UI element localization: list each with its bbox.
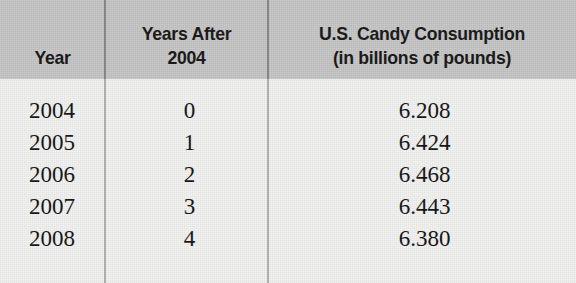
table-row: 2008 4 6.380 [0,223,576,255]
table-header-band: Year Years After 2004 U.S. Candy Consump… [0,0,576,79]
cell-consumption: 6.424 [267,127,576,159]
table-row: 2005 1 6.424 [0,127,576,159]
table-row: 2007 3 6.443 [0,191,576,223]
table-body: 2004 0 6.208 2005 1 6.424 2006 2 6.468 2… [0,79,576,283]
cell-consumption: 6.468 [267,159,576,191]
column-header-year: Year [4,46,102,70]
column-header-consumption-line-1: U.S. Candy Consumption [279,22,565,46]
cell-year: 2006 [0,159,104,191]
cell-consumption: 6.380 [267,223,576,255]
cell-years-after: 3 [104,191,271,223]
column-header-year-line-1: Year [4,46,102,70]
column-header-consumption: U.S. Candy Consumption (in billions of p… [279,22,565,70]
cell-consumption: 6.208 [267,95,576,127]
cell-year: 2007 [0,191,104,223]
candy-consumption-table: Year Years After 2004 U.S. Candy Consump… [0,0,576,283]
column-header-years-after-line-1: Years After [111,22,263,46]
column-header-years-after-line-2: 2004 [111,46,263,70]
cell-year: 2004 [0,95,104,127]
column-header-years-after: Years After 2004 [111,22,263,70]
column-divider-2-header-segment [267,0,269,79]
cell-years-after: 4 [104,223,271,255]
table-row: 2006 2 6.468 [0,159,576,191]
cell-years-after: 1 [104,127,271,159]
column-header-consumption-line-2: (in billions of pounds) [279,46,565,70]
cell-years-after: 2 [104,159,271,191]
cell-year: 2008 [0,223,104,255]
cell-years-after: 0 [104,95,271,127]
table-row: 2004 0 6.208 [0,95,576,127]
cell-consumption: 6.443 [267,191,576,223]
column-divider-1-header-segment [104,0,106,79]
cell-year: 2005 [0,127,104,159]
